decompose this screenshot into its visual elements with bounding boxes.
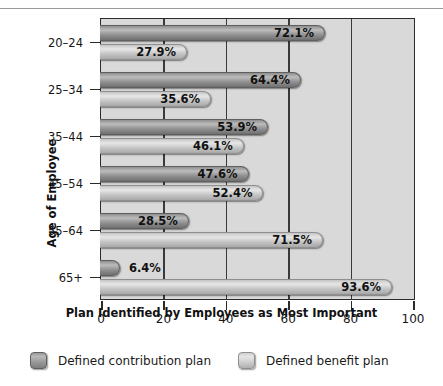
legend-swatch-icon-1 (30, 352, 47, 369)
bar-group-1-series-2: 27.9% (101, 44, 416, 60)
bar-value-label: 35.6% (160, 91, 200, 107)
bar-defined-contribution (100, 260, 120, 276)
gridline-40 (226, 19, 228, 299)
gridline-20 (163, 19, 165, 299)
bar-group-6-series-2: 93.6% (101, 279, 416, 295)
legend-label-2: Defined benefit plan (266, 354, 389, 368)
bar-group-5-series-1: 28.5% (101, 213, 416, 229)
bar-value-label: 71.5% (272, 232, 312, 248)
y-axis-label-4: 45–54 (13, 177, 83, 191)
y-tick-2 (90, 89, 101, 91)
bar-group-3-series-2: 46.1% (101, 138, 416, 154)
legend-item-1[interactable]: Defined contribution plan (30, 352, 211, 369)
bar-value-label: 27.9% (136, 44, 176, 60)
bar-group-3-series-1: 53.9% (101, 119, 416, 135)
bar-group-2-series-1: 64.4% (101, 72, 416, 88)
bar-value-label: 52.4% (213, 185, 253, 201)
bar-value-label: 47.6% (198, 166, 238, 182)
bar-value-label: 53.9% (217, 119, 257, 135)
y-tick-3 (90, 136, 101, 138)
bar-group-6-series-1: 6.4% (101, 260, 416, 276)
chart-figure: Age of Employee 72.1%27.9%20–2464.4%35.6… (0, 0, 443, 386)
bar-group-2-series-2: 35.6% (101, 91, 416, 107)
legend-item-2[interactable]: Defined benefit plan (238, 352, 389, 369)
chart-legend: Defined contribution planDefined benefit… (0, 352, 443, 378)
y-axis-label-1: 20–24 (13, 36, 83, 50)
bar-value-label: 64.4% (250, 72, 290, 88)
bar-group-4-series-1: 47.6% (101, 166, 416, 182)
y-axis-label-5: 55–64 (13, 224, 83, 238)
bar-value-label: 72.1% (274, 25, 314, 41)
y-axis-label-2: 25–34 (13, 83, 83, 97)
y-axis-label-3: 35–44 (13, 130, 83, 144)
bar-value-label: 46.1% (193, 138, 233, 154)
top-caption-fragment (110, 0, 370, 6)
y-axis-label-6: 65+ (13, 271, 83, 285)
y-tick-1 (90, 42, 101, 44)
bar-group-4-series-2: 52.4% (101, 185, 416, 201)
bar-group-1-series-1: 72.1% (101, 25, 416, 41)
bar-value-label: 28.5% (138, 213, 178, 229)
x-axis-title: Plan Identified by Employees as Most Imp… (0, 306, 443, 320)
plot-area: 72.1%27.9%20–2464.4%35.6%25–3453.9%46.1%… (100, 18, 415, 300)
gridline-60 (288, 19, 290, 299)
gridline-80 (351, 19, 353, 299)
y-tick-5 (90, 230, 101, 232)
legend-label-1: Defined contribution plan (58, 354, 211, 368)
y-tick-4 (90, 183, 101, 185)
y-tick-6 (90, 277, 101, 279)
bar-group-5-series-2: 71.5% (101, 232, 416, 248)
bar-value-label: 93.6% (341, 279, 381, 295)
legend-swatch-icon-2 (238, 352, 255, 369)
bar-value-label: 6.4% (129, 260, 161, 276)
top-divider-rule (0, 8, 443, 9)
